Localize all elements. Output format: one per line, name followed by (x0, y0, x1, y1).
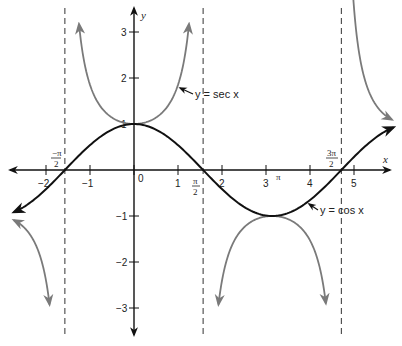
half-pi-label: π 2 (192, 176, 200, 197)
x-tick-label: 5 (351, 178, 357, 189)
svg-text:−π: −π (52, 148, 62, 158)
sec-annotation: y = sec x (180, 88, 239, 100)
sec-branch (14, 220, 50, 304)
x-tick-label: 1 (175, 178, 181, 189)
svg-text:2: 2 (193, 187, 198, 197)
pi-label: π (276, 172, 281, 182)
x-tick-label: −1 (82, 178, 94, 189)
cos-annotation: y = cos x (309, 204, 364, 216)
cos-label: y = cos x (320, 204, 364, 216)
y-axis-label: y (140, 9, 146, 21)
x-tick-label: 4 (307, 178, 313, 189)
neg-half-pi-label: −π 2 (51, 148, 62, 169)
function-graph: −2−1012345321−1−2−3 y x −π 2 π 2 π 3π 2 … (0, 0, 402, 346)
y-tick-label: −2 (116, 257, 128, 268)
svg-text:2: 2 (329, 159, 334, 169)
y-tick-label: −3 (116, 303, 128, 314)
y-tick-label: 2 (121, 73, 127, 84)
y-tick-label: 3 (121, 27, 127, 38)
three-half-pi-label: 3π 2 (326, 148, 338, 169)
y-tick-label: −1 (116, 211, 128, 222)
svg-text:3π: 3π (327, 148, 337, 158)
sec-branch (218, 216, 325, 304)
x-axis-label: x (382, 153, 388, 165)
x-tick-label: 0 (138, 173, 144, 184)
x-tick-label: 3 (263, 178, 269, 189)
svg-text:π: π (193, 176, 198, 186)
sec-branch (350, 0, 391, 120)
sec-label: y = sec x (195, 88, 239, 100)
svg-text:2: 2 (54, 159, 59, 169)
